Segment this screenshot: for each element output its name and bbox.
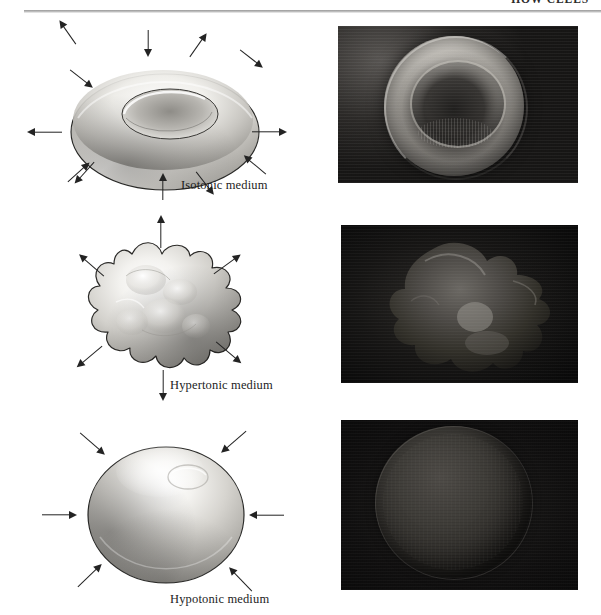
sem-crenated-rbc <box>341 225 578 383</box>
caption-hypotonic: Hypotonic medium <box>170 592 269 607</box>
crenated-cell <box>20 218 310 400</box>
illustration-hypertonic <box>20 218 310 400</box>
running-header: HOW CELLS <box>511 0 589 5</box>
illustration-hypotonic <box>20 415 310 605</box>
caption-isotonic: Isotonic medium <box>181 178 268 193</box>
swollen-spherical-cell <box>20 415 310 605</box>
sem-normal-biconcave-rbc <box>338 26 578 183</box>
sem-swollen-spherical-rbc <box>341 420 578 590</box>
figure-page: HOW CELLS <box>0 0 601 615</box>
caption-hypertonic: Hypertonic medium <box>170 378 273 393</box>
header-rule-shadow <box>24 12 601 13</box>
illustration-isotonic <box>0 22 330 207</box>
